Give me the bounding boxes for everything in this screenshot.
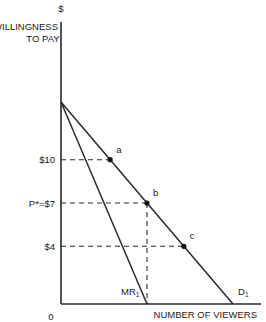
point-label-a: a xyxy=(116,144,122,155)
y-axis-title-line2: TO PAY xyxy=(26,33,60,44)
point-a xyxy=(108,157,113,162)
guide-lines xyxy=(61,160,184,304)
marginal-revenue-label: MR1 xyxy=(121,286,140,298)
demand-label-subscript: 1 xyxy=(245,291,249,298)
price-tick-label: $10 xyxy=(39,154,55,165)
y-axis-unit-label: $ xyxy=(58,3,64,14)
labels: $10P*=$7$4abcMR1D1 xyxy=(29,144,249,298)
point-c xyxy=(181,244,186,249)
y-axis-title-line1: WILLINGNESS xyxy=(0,21,58,32)
point-label-c: c xyxy=(190,230,195,241)
origin-label: 0 xyxy=(48,311,53,322)
demand-label: D1 xyxy=(238,286,249,298)
point-label-b: b xyxy=(153,187,158,198)
x-axis-title: NUMBER OF VIEWERS xyxy=(154,309,257,320)
price-tick-label: P*=$7 xyxy=(29,198,55,209)
point-b xyxy=(144,200,149,205)
price-tick-label: $4 xyxy=(44,241,55,252)
monopoly-pricing-diagram: $ WILLINGNESS TO PAY 0 NUMBER OF VIEWERS… xyxy=(0,0,266,322)
marginal-revenue-label-subscript: 1 xyxy=(136,291,140,298)
